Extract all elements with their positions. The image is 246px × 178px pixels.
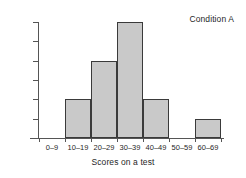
y-axis-tick <box>33 119 38 120</box>
plot-area <box>39 22 221 138</box>
y-axis-tick <box>33 41 38 42</box>
x-axis-title: Scores on a test <box>0 157 246 167</box>
x-axis-tick-label: 60–69 <box>195 143 221 152</box>
y-axis-tick <box>33 22 38 23</box>
x-axis-tick <box>91 138 92 142</box>
x-axis-tick-label: 20–29 <box>91 143 117 152</box>
y-axis-tick <box>33 80 38 81</box>
x-axis-tick-label: 40–49 <box>143 143 169 152</box>
x-axis-tick-label: 30–39 <box>117 143 143 152</box>
x-axis-tick <box>221 138 222 142</box>
x-axis-tick-label: 10–19 <box>65 143 91 152</box>
histogram-bar <box>117 22 143 138</box>
x-axis-tick-label: 50–59 <box>169 143 195 152</box>
x-axis-tick <box>143 138 144 142</box>
y-axis-tick <box>33 61 38 62</box>
x-axis-tick <box>39 138 40 142</box>
histogram-bar <box>65 99 91 138</box>
x-axis-tick-labels: 0–910–1920–2930–3940–4950–5960–69 <box>39 143 221 155</box>
histogram-bar <box>195 119 221 138</box>
histogram-bar <box>143 99 169 138</box>
x-axis-tick <box>117 138 118 142</box>
x-axis-tick <box>169 138 170 142</box>
histogram-chart: Condition A Frequency 0–910–1920–2930–39… <box>0 0 246 178</box>
x-axis-tick-label: 0–9 <box>39 143 65 152</box>
histogram-bar <box>91 61 117 138</box>
y-axis-tick <box>33 99 38 100</box>
x-axis-tick <box>65 138 66 142</box>
x-axis-tick <box>195 138 196 142</box>
